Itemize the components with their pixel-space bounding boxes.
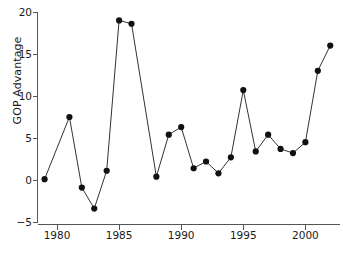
x-tick-label: 1995 bbox=[223, 230, 263, 241]
data-point bbox=[91, 205, 97, 211]
data-point bbox=[166, 132, 172, 138]
axes-group bbox=[38, 12, 341, 225]
data-point bbox=[277, 146, 283, 152]
series-markers-gop-advantage bbox=[41, 17, 333, 211]
data-point bbox=[327, 43, 333, 49]
data-point bbox=[228, 154, 234, 160]
plot-area bbox=[0, 0, 343, 253]
x-tick-label: 2000 bbox=[285, 230, 325, 241]
data-point bbox=[41, 176, 47, 182]
data-point bbox=[66, 114, 72, 120]
data-point bbox=[178, 124, 184, 130]
data-point bbox=[215, 170, 221, 176]
data-point bbox=[302, 139, 308, 145]
data-point bbox=[153, 174, 159, 180]
data-point bbox=[240, 87, 246, 93]
data-point bbox=[128, 21, 134, 27]
data-point bbox=[79, 184, 85, 190]
data-point bbox=[290, 150, 296, 156]
chart-container: GOP Advantage −505101520 198019851990199… bbox=[0, 0, 343, 253]
x-tick-label: 1990 bbox=[161, 230, 201, 241]
x-tick-label: 1980 bbox=[37, 230, 77, 241]
data-point bbox=[116, 17, 122, 23]
series-line-gop-advantage bbox=[45, 20, 331, 208]
x-axis-tick-labels: 19801985199019952000 bbox=[0, 230, 343, 246]
y-tick-marks bbox=[33, 12, 38, 222]
data-point bbox=[315, 68, 321, 74]
data-point bbox=[253, 148, 259, 154]
data-point bbox=[265, 132, 271, 138]
data-point bbox=[203, 158, 209, 164]
data-point bbox=[191, 165, 197, 171]
data-point bbox=[104, 168, 110, 174]
x-tick-label: 1985 bbox=[99, 230, 139, 241]
